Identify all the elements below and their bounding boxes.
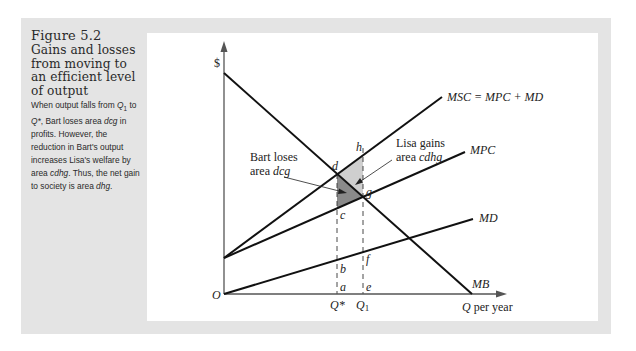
q1-sub: 1 (365, 303, 370, 313)
lisa-annotation-line1: Lisa gains (396, 136, 445, 150)
point-a-label: a (340, 280, 346, 294)
q-star-tick-label: Q* (330, 298, 345, 312)
point-b-label: b (340, 262, 346, 276)
y-axis-arrow-icon (221, 41, 228, 52)
chart-svg: $ O MSC = MPC + MD MPC MD MB Q per year … (0, 0, 636, 351)
bart-annotation-line2: area dcg (250, 164, 290, 178)
bart-arrow (284, 177, 343, 192)
x-axis-q: Q (462, 300, 471, 314)
point-e-label: e (366, 280, 372, 294)
x-axis-suffix: per year (471, 300, 513, 314)
md-label: MD (478, 211, 498, 225)
mpc-label: MPC (469, 143, 496, 157)
point-c-label: c (340, 208, 346, 222)
lisa-area-prefix: area (396, 150, 419, 164)
lisa-arrow (358, 160, 392, 183)
point-d-label: d (332, 159, 339, 173)
lisa-area-name: cdhg (419, 150, 442, 164)
msc-label: MSC = MPC + MD (446, 90, 544, 104)
x-axis-label: Q per year (462, 300, 513, 314)
point-f-label: f (366, 252, 371, 266)
point-h-label: h (356, 140, 362, 154)
bart-area-name: dcg (273, 164, 290, 178)
point-g-label: g (366, 185, 372, 199)
lisa-annotation-line2: area cdhg (396, 150, 442, 164)
x-axis-arrow-icon (496, 291, 507, 298)
y-axis-label: $ (214, 56, 220, 70)
mb-label: MB (471, 277, 490, 291)
q1-main: Q (356, 298, 365, 312)
bart-area-prefix: area (250, 164, 273, 178)
q1-tick-label: Q1 (356, 298, 369, 313)
origin-label: O (212, 288, 221, 302)
bart-annotation-line1: Bart loses (250, 150, 298, 164)
mb-line (224, 73, 472, 294)
